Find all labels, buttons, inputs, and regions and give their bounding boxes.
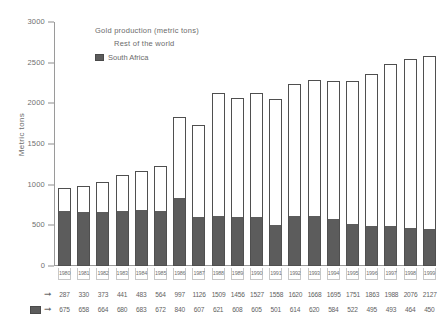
data-value-south-africa: 501 — [269, 306, 282, 313]
y-tick-label: 500 — [32, 220, 45, 230]
bar-segment-south-africa — [404, 228, 417, 266]
data-value-rest-of-world: 1620 — [288, 291, 301, 298]
y-tick-label: 3000 — [28, 17, 46, 27]
bar-column — [58, 22, 71, 266]
bar-segment-south-africa — [116, 211, 129, 266]
bar-segment-rest-of-world — [154, 166, 167, 212]
data-value-rest-of-world: 997 — [173, 291, 186, 298]
data-value-south-africa: 522 — [346, 306, 359, 313]
data-value-south-africa: 450 — [423, 306, 436, 313]
y-tick-label: 0 — [41, 261, 45, 271]
bar-column — [384, 22, 397, 266]
x-tick-label: 1993 — [308, 268, 321, 280]
x-tick-label: 1989 — [231, 268, 244, 280]
data-value-rest-of-world: 1668 — [308, 291, 321, 298]
data-value-south-africa: 607 — [192, 306, 205, 313]
bar-segment-rest-of-world — [173, 117, 186, 198]
data-value-south-africa: 664 — [96, 306, 109, 313]
data-value-south-africa: 680 — [116, 306, 129, 313]
x-tick-label: 1984 — [135, 268, 148, 280]
bar-column — [288, 22, 301, 266]
data-value-rest-of-world: 1751 — [346, 291, 359, 298]
y-tick-label: 1500 — [28, 139, 46, 149]
x-tick-label: 1985 — [154, 268, 167, 280]
data-value-south-africa: 605 — [250, 306, 263, 313]
data-value-south-africa: 621 — [212, 306, 225, 313]
bar-segment-south-africa — [154, 211, 167, 266]
data-value-rest-of-world: 1863 — [365, 291, 378, 298]
y-tick-label: 1000 — [28, 180, 46, 190]
data-value-rest-of-world: 373 — [96, 291, 109, 298]
bar-segment-south-africa — [212, 216, 225, 267]
bar-segment-south-africa — [96, 212, 109, 266]
bar-segment-south-africa — [135, 210, 148, 266]
bar-segment-rest-of-world — [308, 80, 321, 216]
row-swatch-icon — [30, 306, 41, 314]
x-tick-label: 1997 — [384, 268, 397, 280]
bar-column — [423, 22, 436, 266]
data-value-south-africa: 620 — [308, 306, 321, 313]
arrow-right-icon: ➞ — [44, 290, 52, 299]
data-value-rest-of-world: 2076 — [404, 291, 417, 298]
row-values-south-africa: 6756586646806836728406076216086055016146… — [54, 306, 436, 313]
x-tick-label: 1996 — [365, 268, 378, 280]
bar-column — [250, 22, 263, 266]
data-value-south-africa: 658 — [77, 306, 90, 313]
row-marker-rest-of-world: ➞ — [0, 288, 54, 301]
data-value-south-africa: 495 — [365, 306, 378, 313]
bar-segment-rest-of-world — [58, 188, 71, 211]
x-tick-label: 1990 — [250, 268, 263, 280]
x-tick-label: 1980 — [58, 268, 71, 280]
bar-segment-rest-of-world — [250, 93, 263, 217]
data-value-rest-of-world: 2127 — [423, 291, 436, 298]
x-tick-label: 1981 — [77, 268, 90, 280]
data-value-rest-of-world: 1558 — [269, 291, 282, 298]
bar-segment-rest-of-world — [346, 81, 359, 223]
data-value-rest-of-world: 287 — [58, 291, 71, 298]
bar-segment-rest-of-world — [423, 56, 436, 229]
row-values-rest-of-world: 2873303734414835649971126150914561527155… — [54, 291, 436, 298]
bar-segment-south-africa — [384, 226, 397, 266]
bar-segment-rest-of-world — [384, 64, 397, 226]
bar-segment-rest-of-world — [269, 99, 282, 226]
bar-segment-rest-of-world — [192, 125, 205, 217]
x-tick-label: 1983 — [116, 268, 129, 280]
bar-column — [327, 22, 340, 266]
bar-column — [365, 22, 378, 266]
data-value-rest-of-world: 330 — [77, 291, 90, 298]
legend-item-south-africa: South Africa — [95, 51, 199, 64]
x-tick-label: 1998 — [404, 268, 417, 280]
data-value-south-africa: 614 — [288, 306, 301, 313]
arrow-right-icon: ➞ — [44, 305, 52, 314]
bar-segment-south-africa — [173, 198, 186, 266]
bar-segment-rest-of-world — [135, 171, 148, 210]
x-tick-label: 1992 — [288, 268, 301, 280]
bar-column — [346, 22, 359, 266]
x-tick-label: 1999 — [423, 268, 436, 280]
bar-segment-rest-of-world — [404, 59, 417, 228]
bar-segment-rest-of-world — [77, 186, 90, 213]
x-tick-label: 1995 — [346, 268, 359, 280]
bar-segment-south-africa — [288, 216, 301, 266]
legend-title: Gold production (metric tons) — [95, 24, 199, 37]
x-tick-label: 1994 — [327, 268, 340, 280]
data-value-south-africa: 672 — [154, 306, 167, 313]
bar-segment-rest-of-world — [231, 98, 244, 216]
gold-production-figure: Metric tons 050010001500200025003000 198… — [0, 0, 442, 330]
data-value-rest-of-world: 1509 — [212, 291, 225, 298]
bar-segment-south-africa — [327, 219, 340, 266]
y-tick-label: 2500 — [28, 58, 46, 68]
data-value-south-africa: 584 — [327, 306, 340, 313]
row-marker-south-africa: ➞ — [0, 303, 54, 316]
data-value-rest-of-world: 564 — [154, 291, 167, 298]
data-value-rest-of-world: 1126 — [192, 291, 205, 298]
x-tick-label: 1987 — [192, 268, 205, 280]
bar-segment-south-africa — [58, 211, 71, 266]
data-value-rest-of-world: 1527 — [250, 291, 263, 298]
x-tick-label: 1991 — [269, 268, 282, 280]
y-tick-label: 2000 — [28, 98, 46, 108]
bar-segment-south-africa — [77, 212, 90, 266]
bar-segment-rest-of-world — [96, 182, 109, 212]
data-row-rest-of-world: ➞ 28733037344148356499711261509145615271… — [0, 288, 442, 301]
chart-legend: Gold production (metric tons) Rest of th… — [95, 24, 199, 64]
